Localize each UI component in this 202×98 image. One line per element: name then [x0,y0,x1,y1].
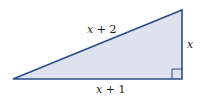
hypotenuse-label: x + 2 [87,23,116,36]
horizontal-leg-label: x + 1 [96,83,125,96]
triangle-diagram: x + 2 x x + 1 [0,0,202,98]
right-triangle [13,10,182,79]
vertical-leg-label: x [187,38,194,51]
